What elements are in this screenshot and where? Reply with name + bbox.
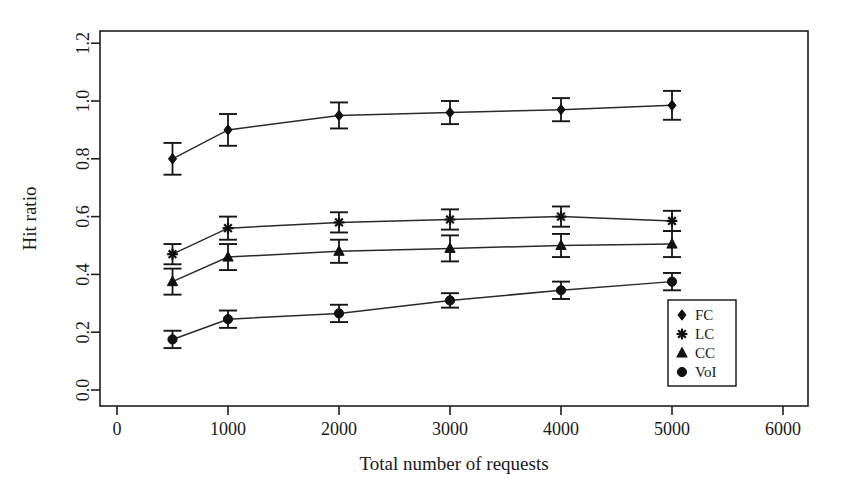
- x-tick-label: 1000: [210, 419, 246, 439]
- legend-label: VoI: [695, 364, 716, 380]
- x-tick-label: 2000: [321, 419, 357, 439]
- y-axis-title: Hit ratio: [19, 187, 40, 251]
- data-point: [223, 315, 232, 324]
- data-point: [334, 217, 345, 228]
- x-tick-label: 0: [113, 419, 122, 439]
- y-tick-label: 1.2: [73, 32, 93, 55]
- chart-legend: FCLCCCVoI: [668, 300, 736, 386]
- legend-label: CC: [695, 345, 715, 361]
- data-point: [445, 296, 454, 305]
- y-tick-label: 1.0: [73, 90, 93, 113]
- y-tick-label: 0.4: [73, 263, 93, 286]
- y-tick-label: 0.0: [73, 379, 93, 402]
- data-point: [667, 216, 678, 227]
- data-point: [556, 286, 565, 295]
- data-point: [167, 249, 178, 260]
- x-tick-label: 3000: [432, 419, 468, 439]
- data-point: [556, 211, 567, 222]
- legend-label: LC: [695, 326, 714, 342]
- star-icon: [677, 329, 688, 340]
- data-point: [223, 223, 234, 234]
- x-tick-label: 4000: [543, 419, 579, 439]
- open-circle-icon: [677, 367, 686, 376]
- y-tick-label: 0.6: [73, 205, 93, 228]
- legend-label: FC: [695, 307, 713, 323]
- x-axis-title: Total number of requests: [359, 453, 548, 474]
- y-tick-label: 0.8: [73, 148, 93, 171]
- data-point: [168, 335, 177, 344]
- data-point: [445, 214, 456, 225]
- chart-figure-root: 0100020003000400050006000 0.00.20.40.60.…: [0, 0, 846, 503]
- data-point: [667, 277, 676, 286]
- y-tick-label: 0.2: [73, 321, 93, 344]
- x-tick-label: 6000: [765, 419, 801, 439]
- figure-background: [0, 0, 846, 503]
- x-tick-label: 5000: [654, 419, 690, 439]
- data-point: [334, 309, 343, 318]
- hit-ratio-line-chart: 0100020003000400050006000 0.00.20.40.60.…: [0, 0, 846, 503]
